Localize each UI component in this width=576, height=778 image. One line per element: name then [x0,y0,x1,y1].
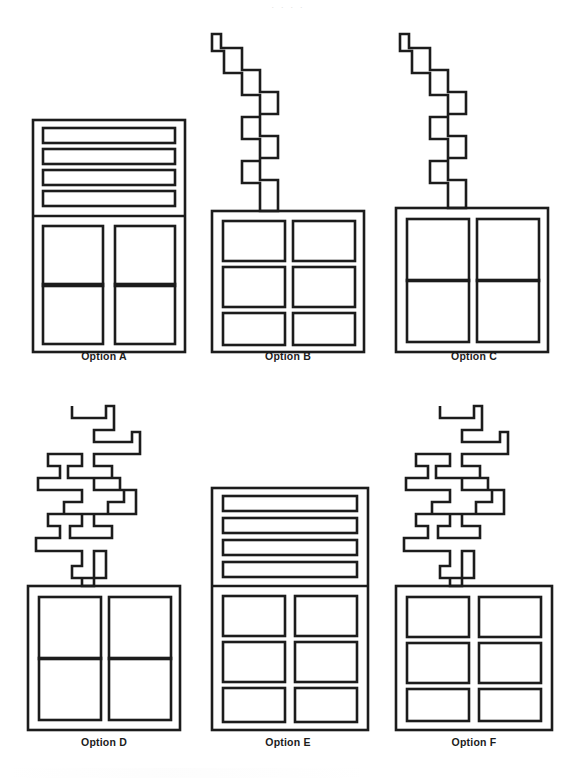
option-f-grid-cell-r1c1 [407,597,469,637]
option-figure-c[interactable]: Option C [382,18,566,370]
option-e-grid-cell-r1c2 [295,596,357,636]
option-a-grid-cell-r1c2 [115,226,175,286]
option-e-bar-3 [223,540,357,555]
option-c-zigzag [400,34,466,208]
option-figure-f[interactable]: Option F [382,396,566,758]
option-b-grid-cell-r2c2 [293,267,355,307]
option-figure-a[interactable]: Option A [14,18,194,370]
option-a-drawing [14,18,194,363]
option-c-drawing [382,18,566,363]
option-e-label: Option E [198,736,378,748]
option-a-outer-frame [33,120,185,352]
option-a-label: Option A [14,350,194,362]
option-b-outer-frame [212,211,364,352]
scan-artifact-top: · · · · [0,0,576,14]
option-e-grid-cell-r3c1 [223,688,285,722]
option-d-grid-cell-r2c1 [39,658,101,720]
option-b-grid-cell-r3c2 [293,313,355,345]
option-f-grid-cell-r2c1 [407,643,469,683]
option-f-grid-cell-r3c1 [407,689,469,721]
option-f-grid-cell-r2c2 [479,643,541,683]
option-figure-b[interactable]: Option B [198,18,378,370]
option-b-label: Option B [198,350,378,362]
option-b-grid-cell-r1c1 [223,221,285,261]
option-b-grid-cell-r2c1 [223,267,285,307]
option-d-grid-cell-r1c2 [109,597,171,659]
option-d-label: Option D [14,736,194,748]
option-e-bar-1 [223,496,357,511]
option-f-grid-cell-r1c2 [479,597,541,637]
option-e-grid-cell-r2c2 [295,642,357,682]
option-f-zigzag [404,406,508,586]
option-a-bar-2 [43,149,175,164]
option-e-grid-cell-r1c1 [223,596,285,636]
option-d-grid-cell-r2c2 [109,658,171,720]
scan-artifact-bottom [0,768,576,778]
option-b-drawing [198,18,378,363]
option-b-zigzag [212,34,278,211]
option-a-grid-cell-r2c1 [43,284,103,344]
option-f-label: Option F [382,736,566,748]
option-a-grid-cell-r2c2 [115,284,175,344]
option-e-bar-4 [223,562,357,577]
figure-sheet: · · · · Option A [0,0,576,778]
option-c-grid-cell-r2c2 [477,280,539,342]
option-c-label: Option C [382,350,566,362]
option-b-grid-cell-r1c2 [293,221,355,261]
option-b-grid-cell-r3c1 [223,313,285,345]
option-c-grid-cell-r2c1 [407,280,469,342]
option-e-grid-cell-r2c1 [223,642,285,682]
option-figure-d[interactable]: Option D [14,396,194,758]
option-f-grid-cell-r3c2 [479,689,541,721]
option-f-drawing [382,396,566,751]
option-a-bar-3 [43,170,175,185]
option-d-zigzag [36,406,140,586]
option-d-grid-cell-r1c1 [39,597,101,659]
option-c-grid-cell-r1c2 [477,219,539,281]
option-a-bar-4 [43,191,175,206]
option-f-outer-frame [396,586,552,730]
option-c-grid-cell-r1c1 [407,219,469,281]
option-a-bar-1 [43,128,175,143]
option-e-bar-2 [223,518,357,533]
option-e-grid-cell-r3c2 [295,688,357,722]
option-e-drawing [198,396,378,751]
option-e-outer-frame [212,488,368,730]
option-d-drawing [14,396,194,751]
option-figure-e[interactable]: Option E [198,396,378,758]
option-a-grid-cell-r1c1 [43,226,103,286]
